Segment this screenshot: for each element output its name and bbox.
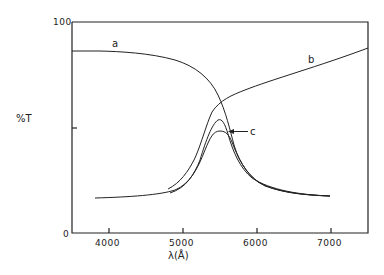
- transmission-chart: 100 0 %T 4000 5000 6000 7000 λ(Å) a b c: [0, 0, 384, 275]
- y-tick-label-0: 0: [63, 229, 69, 239]
- curve-a: [72, 51, 330, 196]
- curve-b: [168, 48, 368, 189]
- curve-a-label: a: [112, 38, 118, 49]
- y-axis-label: %T: [16, 113, 33, 124]
- x-tick-label-5000: 5000: [169, 238, 194, 248]
- x-tick-label-4000: 4000: [95, 238, 120, 248]
- plot-border: [72, 22, 368, 233]
- plot-frame: [72, 22, 368, 233]
- curve-b-label: b: [308, 54, 314, 65]
- curve-c: [95, 131, 330, 198]
- x-tick-label-6000: 6000: [243, 238, 268, 248]
- x-axis-label: λ(Å): [168, 249, 189, 261]
- x-tick-label-7000: 7000: [317, 238, 342, 248]
- y-tick-label-100: 100: [53, 17, 72, 27]
- curve-c-label: c: [250, 126, 256, 137]
